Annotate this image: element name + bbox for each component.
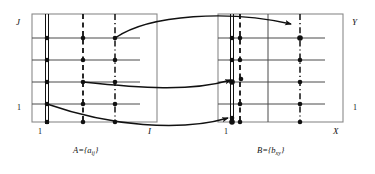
figure-canvas [0, 0, 375, 174]
panel-a-column-1-double-solid [46, 14, 49, 124]
panel-b-axis-label-right-bottom: 1 [353, 104, 357, 112]
panel-a-axis-label-bottom-right: I [148, 127, 151, 136]
panel-a-intersection-dots [45, 36, 118, 125]
panel-b [218, 14, 343, 125]
panel-b-caption-close: } [281, 145, 284, 155]
panel-b-caption: B={bxy} [257, 146, 284, 156]
panel-a-axis-label-top: J [16, 18, 20, 27]
panel-a-caption-main: A={a [73, 145, 92, 155]
panel-b-axis-label-top: Y [352, 18, 357, 27]
panel-b-horizontal-gridlines [218, 38, 325, 104]
panel-a [32, 14, 157, 124]
panel-b-axis-label-bottom-right: X [333, 127, 339, 136]
panel-a-tick-bottom-left: 1 [38, 128, 42, 136]
panel-b-caption-main: B={b [257, 145, 276, 155]
panel-a-caption: A={aij} [73, 146, 98, 156]
panel-a-axis-label-left-bottom: 1 [17, 104, 21, 112]
panel-b-tick-bottom-left: 1 [224, 128, 228, 136]
arrow-top [115, 16, 291, 38]
panel-b-border [218, 14, 343, 122]
panel-b-column-1-double-solid [231, 14, 234, 124]
panel-a-caption-close: } [95, 145, 98, 155]
